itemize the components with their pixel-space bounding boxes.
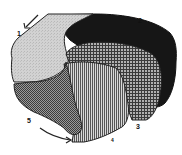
regions-svg	[0, 0, 182, 155]
diagram: 1 2 3 4 5	[0, 0, 182, 155]
label-region-5: 5	[27, 117, 31, 124]
label-region-4: 4	[111, 138, 114, 143]
label-region-2: 2	[138, 17, 142, 24]
label-region-1: 1	[17, 30, 21, 37]
label-region-3: 3	[136, 123, 140, 130]
